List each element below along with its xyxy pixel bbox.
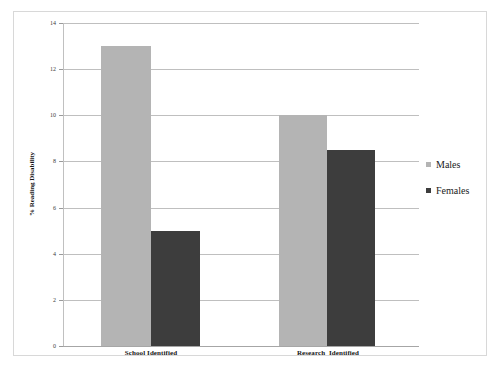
- x-tick-label-research-identified: Research Identified: [297, 349, 359, 357]
- x-tick-label-school-identified: School Identified: [125, 349, 177, 357]
- y-tick-mark-6: [59, 208, 63, 209]
- plot-area: 14 12 10 8 6 4 2 0: [63, 23, 419, 346]
- gridline-0-baseline: [63, 346, 419, 347]
- y-tick-label-2: 2: [53, 297, 56, 303]
- y-tick-mark-0: [59, 346, 63, 347]
- legend-entry-males: Males: [426, 159, 486, 170]
- y-tick-mark-10: [59, 115, 63, 116]
- y-tick-label-14: 14: [50, 20, 56, 26]
- bar-research-identified-females: [327, 150, 375, 346]
- y-tick-label-0: 0: [53, 343, 56, 349]
- legend-label-males: Males: [436, 159, 460, 170]
- y-tick-mark-14: [59, 23, 63, 24]
- y-tick-mark-2: [59, 300, 63, 301]
- legend-entry-females: Females: [426, 185, 486, 196]
- square-swatch-icon: [426, 188, 431, 193]
- chart-frame-border: % Reading Disability 14 12 10 8 6 4: [13, 11, 487, 356]
- y-tick-label-4: 4: [53, 251, 56, 257]
- y-tick-mark-4: [59, 254, 63, 255]
- y-axis-title: % Reading Disability: [28, 151, 36, 215]
- x-axis-labels: School Identified Research Identified: [63, 349, 419, 365]
- bar-school-identified-females: [151, 231, 200, 346]
- chart-legend: Males Females: [426, 159, 486, 211]
- y-tick-label-12: 12: [50, 66, 56, 72]
- bar-chart-figure: % Reading Disability 14 12 10 8 6 4: [0, 0, 502, 369]
- square-swatch-icon: [426, 162, 431, 167]
- y-tick-mark-8: [59, 161, 63, 162]
- gridline-14: [63, 23, 419, 24]
- y-tick-label-10: 10: [50, 112, 56, 118]
- y-tick-mark-12: [59, 69, 63, 70]
- bar-school-identified-males: [101, 46, 151, 346]
- bar-research-identified-males: [279, 115, 327, 346]
- y-axis-line: [63, 23, 64, 346]
- legend-label-females: Females: [436, 185, 469, 196]
- y-tick-label-6: 6: [53, 205, 56, 211]
- y-tick-label-8: 8: [53, 158, 56, 164]
